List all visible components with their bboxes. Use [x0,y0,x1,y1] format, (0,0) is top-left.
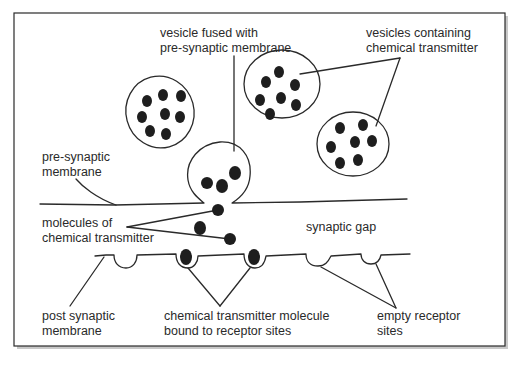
transmitter-molecule [176,90,186,102]
released-transmitter-molecule [224,233,236,245]
transmitter-molecule [137,111,147,123]
transmitter-molecule [367,135,377,147]
transmitter-molecule [142,95,152,107]
transmitter-molecule [353,154,363,166]
transmitter-molecule [201,177,213,189]
label-synaptic-gap: synaptic gap [306,220,376,235]
label-vesicle-fused: vesicle fused with pre-synaptic membrane [160,26,291,56]
transmitter-molecule [255,94,265,106]
transmitter-molecule [358,119,368,131]
transmitter-molecule [175,111,185,123]
transmitter-molecule [261,76,271,88]
transmitter-molecule [160,108,170,120]
label-pre-synaptic-membrane: pre-synaptic membrane [42,150,110,180]
transmitter-molecule [265,108,275,120]
transmitter-molecule [276,92,286,104]
transmitter-molecule [291,99,301,111]
transmitter-molecule [335,122,345,134]
label-vesicles-containing: vesicles containing chemical transmitter [366,26,478,56]
label-molecules-of-transmitter: molecules of chemical transmitter [42,216,154,246]
transmitter-molecule [216,179,228,193]
transmitter-molecule [274,66,284,78]
released-transmitter-molecule [212,204,224,216]
released-transmitter-molecule [194,221,206,235]
bound-transmitter-molecule [248,249,260,265]
transmitter-molecule [158,89,168,101]
label-bound-transmitter: chemical transmitter molecule bound to r… [164,309,329,339]
transmitter-molecule [326,141,336,153]
label-post-synaptic-membrane: post synaptic membrane [42,309,115,339]
transmitter-molecule [145,125,155,137]
transmitter-molecule [290,79,300,91]
transmitter-molecule [335,157,345,169]
bound-transmitter-molecule [180,249,192,265]
transmitter-molecule [350,136,360,148]
transmitter-molecule [229,166,241,180]
label-empty-receptor-sites: empty receptor sites [377,309,460,339]
transmitter-molecule [161,128,171,140]
